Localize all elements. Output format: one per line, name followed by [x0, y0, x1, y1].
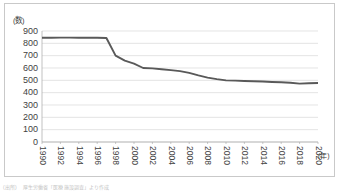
- footnote: (出所)厚生労働省「医療施設調査」より作成: [3, 183, 109, 190]
- footnote-source-text: 厚生労働省「医療施設調査」より作成: [23, 184, 110, 190]
- data-series-line: [42, 38, 318, 84]
- footnote-source-label: (出所): [3, 184, 17, 190]
- axis-lines: [42, 31, 318, 144]
- line-chart-plot: [0, 0, 343, 194]
- gridlines: [42, 31, 318, 142]
